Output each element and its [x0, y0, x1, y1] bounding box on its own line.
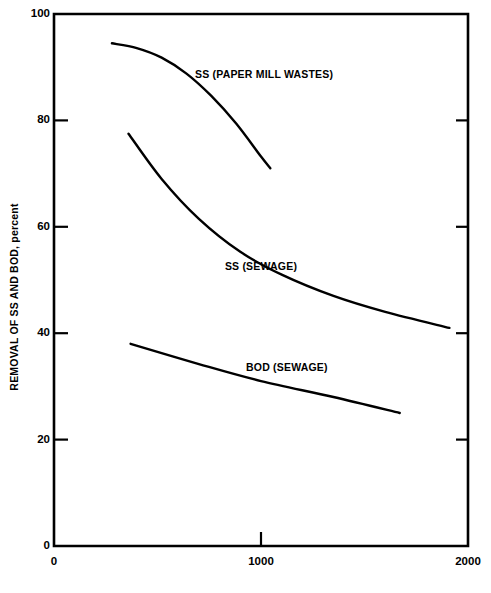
y-tick-label: 20 — [20, 434, 50, 446]
x-tick-label: 2000 — [438, 556, 491, 568]
plot-frame — [54, 14, 468, 546]
series-label: BOD (SEWAGE) — [246, 361, 328, 373]
y-tick-label: 0 — [20, 540, 50, 552]
series-line-2 — [131, 344, 400, 413]
y-tick-label: 100 — [20, 8, 50, 20]
y-tick-label: 80 — [20, 114, 50, 126]
x-tick-label: 1000 — [231, 556, 291, 568]
axis-ticks — [54, 120, 468, 546]
data-series — [112, 43, 449, 413]
chart-figure: REMOVAL OF SS AND BOD, percent 020406080… — [0, 0, 491, 593]
series-line-0 — [112, 43, 270, 168]
plot-area — [0, 0, 491, 593]
series-label: SS (SEWAGE) — [225, 260, 297, 272]
y-tick-label: 40 — [20, 327, 50, 339]
axes — [54, 14, 468, 546]
series-line-1 — [129, 134, 450, 328]
series-label: SS (PAPER MILL WASTES) — [195, 68, 333, 80]
x-tick-label: 0 — [24, 556, 84, 568]
y-tick-label: 60 — [20, 221, 50, 233]
